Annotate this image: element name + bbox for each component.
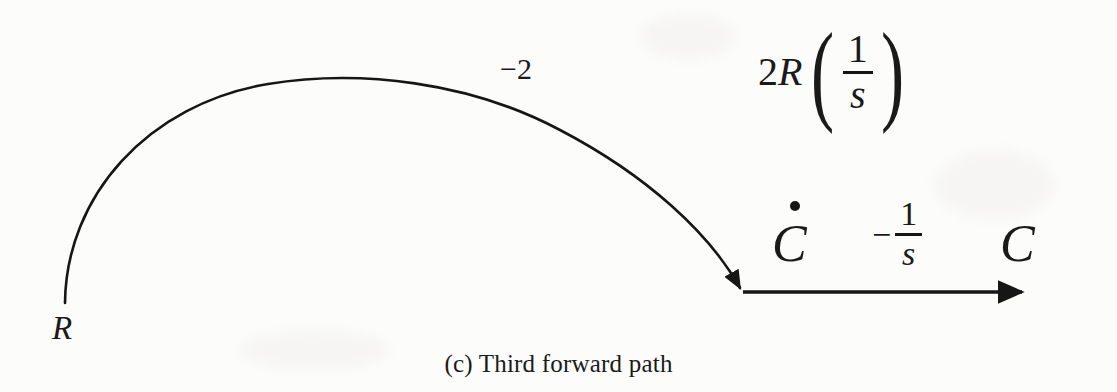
paren-close: ) (881, 29, 904, 116)
figure-third-forward-path: R C C −2 2R ( 1 s ) − 1 s (c) Third forw… (0, 0, 1117, 392)
node-label-c-dot-text: C (772, 215, 807, 272)
paren-open: ( (812, 29, 835, 116)
node-label-R: R (52, 312, 72, 345)
node-label-c-dot: C (772, 218, 807, 270)
fraction-numerator: 1 (895, 196, 922, 233)
expression-coefficient-number: 2 (758, 49, 778, 94)
branch-gain-minus-2: −2 (500, 54, 532, 84)
fraction-denominator: s (897, 236, 920, 273)
figure-caption: (c) Third forward path (0, 350, 1117, 378)
minus-sign: − (872, 218, 891, 252)
fraction-one-over-s: 1 s (843, 28, 873, 117)
overdot-accent-icon (790, 201, 800, 211)
fraction-one-over-s: 1 s (895, 196, 922, 272)
node-label-c-output: C (1000, 218, 1035, 270)
fraction-denominator: s (845, 74, 871, 117)
branch-gain-minus-one-over-s: − 1 s (872, 196, 923, 272)
fraction-numerator: 1 (843, 28, 873, 71)
signal-flow-graph-canvas (0, 0, 1117, 392)
expression-coefficient-symbol: R (778, 49, 802, 94)
expression-2r-one-over-s: 2R ( 1 s ) (758, 28, 911, 117)
branch-arc-R-to-Cdot (65, 78, 740, 303)
expression-coefficient: 2R (758, 52, 802, 92)
